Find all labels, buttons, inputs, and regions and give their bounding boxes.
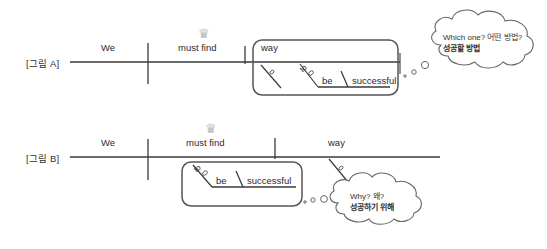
figure-a-verb-word: must find bbox=[178, 42, 217, 53]
figure-b-thought-dot-3 bbox=[321, 196, 328, 203]
figure-b-complement-divider bbox=[236, 171, 243, 187]
figure-a-subject-word: We bbox=[101, 42, 115, 53]
figure-b-bubble-line1: Why? 왜? bbox=[350, 192, 384, 201]
figure-a-complement-divider bbox=[341, 71, 348, 87]
figure-a-bubble-line2: 성공할 방법 bbox=[443, 43, 522, 54]
crown-icon: ♛ bbox=[205, 122, 217, 135]
figure-b-object-modifier-slant bbox=[329, 159, 348, 182]
figure-b-verb-word: must find bbox=[186, 137, 225, 148]
figure-b-complement-word: successful bbox=[247, 175, 291, 186]
figure-a-object-modifier-slant bbox=[261, 65, 281, 88]
figure-b-object-word: way bbox=[328, 137, 345, 148]
figure-b-thought-dot-1 bbox=[304, 201, 306, 203]
figure-b-bubble-line2: 성공하기 위해 bbox=[350, 202, 394, 213]
figure-a-thought-dot-3 bbox=[421, 61, 428, 68]
figure-a-thought-dot-2 bbox=[412, 70, 416, 74]
crown-icon: ♛ bbox=[198, 27, 210, 40]
figure-b-infinitive-mark bbox=[202, 170, 208, 176]
figure-a-thought-dot-1 bbox=[404, 75, 406, 77]
figure-a-bubble-text: Which one? 어떤 방법? 성공할 방법 bbox=[443, 32, 522, 54]
figure-b-label: [그림 B] bbox=[26, 151, 59, 165]
figure-b-bubble-text: Why? 왜? 성공하기 위해 bbox=[350, 191, 394, 213]
figure-a-bubble-line1: Which one? 어떤 방법? bbox=[443, 33, 522, 42]
figure-b-thought-dot-2 bbox=[311, 198, 315, 202]
figure-a-object-word: way bbox=[261, 42, 278, 53]
figure-b-infinitive-verb-word: be bbox=[216, 175, 227, 186]
figure-b-object-modifier-mark bbox=[338, 165, 343, 170]
figure-b-subject-word: We bbox=[101, 137, 115, 148]
figure-a-infinitive-verb-word: be bbox=[322, 75, 333, 86]
figure-a-object-modifier-mark bbox=[269, 69, 274, 74]
figure-a-complement-word: successful bbox=[352, 75, 396, 86]
figure-a-label: [그림 A] bbox=[26, 56, 59, 70]
